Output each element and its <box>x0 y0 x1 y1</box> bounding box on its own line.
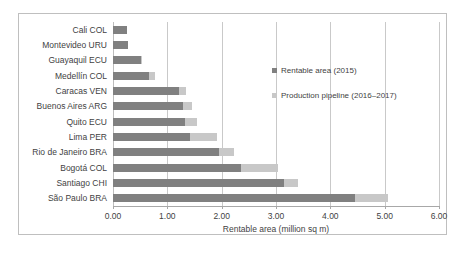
x-axis-title: Rentable area (million sq m) <box>113 224 439 234</box>
bar-row: Santiago CHI <box>113 175 439 190</box>
chart-legend: Rentable area (2015)Production pipeline … <box>272 66 397 116</box>
x-tick-mark <box>330 206 331 209</box>
bar-segment-rentable <box>113 164 241 172</box>
bar-segment-rentable <box>113 148 219 156</box>
y-axis-label: São Paulo BRA <box>48 193 107 203</box>
x-tick-label: 5.00 <box>376 211 393 221</box>
x-tick-mark <box>113 206 114 209</box>
bar-row: Bogotá COL <box>113 160 439 175</box>
x-tick-label: 2.00 <box>213 211 230 221</box>
x-tick-label: 0.00 <box>105 211 122 221</box>
y-axis-label: Bogotá COL <box>60 163 107 173</box>
bar-row: Rio de Janeiro BRA <box>113 145 439 160</box>
bar-segment-pipeline <box>241 164 278 172</box>
y-axis-label: Medellín COL <box>55 71 107 81</box>
y-axis-label: Quito ECU <box>66 117 107 127</box>
stacked-bar <box>113 164 278 172</box>
y-axis-label: Santiago CHI <box>56 178 107 188</box>
legend-entry: Production pipeline (2016–2017) <box>272 91 397 100</box>
bar-segment-pipeline <box>179 87 186 95</box>
legend-label: Rentable area (2015) <box>281 66 357 75</box>
x-tick-mark <box>222 206 223 209</box>
stacked-bar <box>113 41 128 49</box>
bar-segment-rentable <box>113 194 355 202</box>
x-tick-label: 1.00 <box>159 211 176 221</box>
stacked-bar <box>113 26 127 34</box>
bar-segment-rentable <box>113 87 179 95</box>
x-tick-mark <box>385 206 386 209</box>
bar-segment-rentable <box>113 118 185 126</box>
y-axis-label: Cali COL <box>73 25 107 35</box>
bar-row: Lima PER <box>113 129 439 144</box>
legend-label: Production pipeline (2016–2017) <box>281 91 397 100</box>
stacked-bar <box>113 72 155 80</box>
bar-segment-rentable <box>113 26 127 34</box>
stacked-bar <box>113 179 298 187</box>
y-axis-label: Montevideo URU <box>42 40 107 50</box>
legend-swatch-icon <box>272 93 277 98</box>
gridline-6.00 <box>439 22 440 206</box>
bar-row: Quito ECU <box>113 114 439 129</box>
legend-entry: Rentable area (2015) <box>272 66 397 75</box>
stacked-bar <box>113 118 197 126</box>
bar-segment-rentable <box>113 56 141 64</box>
bar-segment-pipeline <box>141 56 142 64</box>
legend-swatch-icon <box>272 68 277 73</box>
bar-segment-pipeline <box>219 148 234 156</box>
stacked-bar <box>113 133 217 141</box>
x-tick-mark <box>439 206 440 209</box>
bar-segment-rentable <box>113 179 284 187</box>
bar-row: Montevideo URU <box>113 37 439 52</box>
bar-segment-pipeline <box>185 118 197 126</box>
stacked-bar <box>113 87 186 95</box>
chart-figure: Cali COLMontevideo URUGuayaquil ECUMedel… <box>0 0 465 254</box>
bar-segment-pipeline <box>149 72 156 80</box>
y-axis-label: Caracas VEN <box>56 86 108 96</box>
y-axis-label: Buenos Aires ARG <box>37 101 107 111</box>
y-axis-label: Guayaquil ECU <box>48 55 107 65</box>
bar-segment-pipeline <box>183 102 192 110</box>
stacked-bar <box>113 56 142 64</box>
bar-segment-pipeline <box>190 133 217 141</box>
x-tick-mark <box>167 206 168 209</box>
bar-segment-pipeline <box>284 179 298 187</box>
bar-segment-rentable <box>113 102 183 110</box>
x-tick-mark <box>276 206 277 209</box>
stacked-bar <box>113 102 192 110</box>
y-axis-label: Rio de Janeiro BRA <box>32 147 107 157</box>
bar-segment-rentable <box>113 72 149 80</box>
x-tick-label: 3.00 <box>268 211 285 221</box>
stacked-bar <box>113 194 388 202</box>
y-axis-label: Lima PER <box>69 132 107 142</box>
bar-row: São Paulo BRA <box>113 191 439 206</box>
bar-segment-rentable <box>113 41 128 49</box>
stacked-bar <box>113 148 234 156</box>
bar-segment-rentable <box>113 133 190 141</box>
x-tick-label: 6.00 <box>431 211 448 221</box>
bar-segment-pipeline <box>355 194 389 202</box>
x-tick-label: 4.00 <box>322 211 339 221</box>
bar-row: Cali COL <box>113 22 439 37</box>
